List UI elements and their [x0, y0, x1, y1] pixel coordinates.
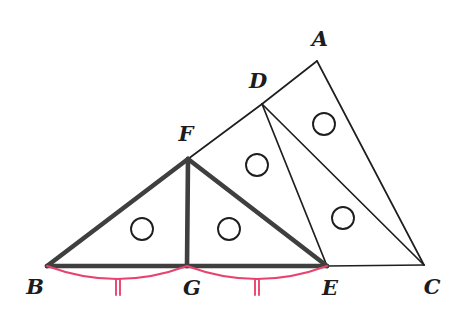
- vertex-label-g: G: [183, 275, 201, 300]
- vertex-label-b: B: [25, 274, 44, 299]
- angle-marker-DEC: [332, 207, 354, 229]
- vertex-label-d: D: [248, 68, 268, 93]
- vertex-label-layer: ABCDEFG: [25, 26, 441, 300]
- vertex-label-e: E: [321, 275, 339, 300]
- angle-marker-BFG: [131, 218, 153, 240]
- vertex-label-f: F: [178, 121, 196, 146]
- segment-FG: [187, 159, 188, 266]
- segment-BF: [47, 159, 188, 266]
- segment-AC: [317, 61, 424, 265]
- geometry-diagram: ABCDEFG: [0, 0, 464, 334]
- segment-DC: [262, 104, 424, 265]
- segment-DA: [262, 61, 317, 104]
- vertex-label-a: A: [310, 26, 328, 51]
- angle-marker-DAC: [313, 113, 335, 135]
- segment-EC: [327, 265, 424, 266]
- thin-segment-layer: [188, 61, 424, 266]
- bold-segment-layer: [47, 159, 327, 266]
- geometry-figure-canvas: ABCDEFG: [0, 0, 464, 334]
- angle-marker-GFE: [218, 218, 240, 240]
- angle-marker-FDE: [246, 154, 268, 176]
- vertex-label-c: C: [424, 274, 441, 299]
- segment-FD: [188, 104, 262, 159]
